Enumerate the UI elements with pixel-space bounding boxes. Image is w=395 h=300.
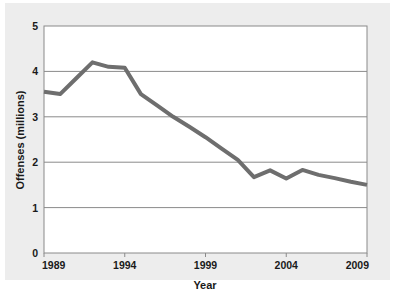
x-tick-label-1994: 1994 bbox=[113, 259, 137, 271]
y-tick-label-0: 0 bbox=[32, 247, 38, 259]
chart-figure: 012345 19891994199920042009 Year Offense… bbox=[0, 0, 395, 300]
x-axis-ticks-group bbox=[44, 253, 367, 257]
y-tick-label-4: 4 bbox=[32, 65, 38, 77]
y-tick-label-5: 5 bbox=[32, 20, 38, 32]
y-tick-label-3: 3 bbox=[32, 111, 38, 123]
x-axis-title: Year bbox=[193, 279, 217, 291]
x-tick-label-1989: 1989 bbox=[42, 259, 66, 271]
x-tick-label-2004: 2004 bbox=[275, 259, 299, 271]
y-axis-tick-labels-group: 012345 bbox=[32, 20, 38, 259]
x-tick-label-2009: 2009 bbox=[346, 259, 370, 271]
line-chart: 012345 19891994199920042009 Year Offense… bbox=[0, 0, 395, 300]
y-tick-label-2: 2 bbox=[32, 156, 38, 168]
x-tick-label-1999: 1999 bbox=[194, 259, 218, 271]
y-axis-title: Offenses (millions) bbox=[14, 90, 26, 189]
y-tick-label-1: 1 bbox=[32, 202, 38, 214]
x-axis-tick-labels-group: 19891994199920042009 bbox=[42, 259, 369, 271]
